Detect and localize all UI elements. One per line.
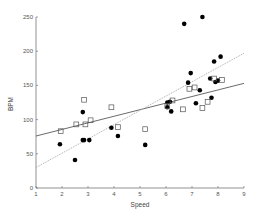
x-tick-label: 2 — [60, 191, 64, 197]
open-square-point — [82, 97, 87, 102]
x-tick-label: 9 — [242, 191, 246, 197]
filled-circle-point — [82, 138, 87, 143]
y-tick-label: 50 — [26, 151, 33, 157]
scatter-chart: 123456789050100150200250 Speed BPM — [0, 0, 259, 217]
open-square-point — [187, 86, 192, 91]
data-points — [58, 15, 225, 163]
filled-circle-point — [165, 105, 170, 110]
x-axis-label: Speed — [131, 201, 150, 209]
x-tick-label: 7 — [190, 191, 194, 197]
filled-circle-point — [194, 101, 199, 106]
filled-circle-point — [182, 22, 187, 27]
dotted-regression-line — [36, 53, 244, 167]
filled-circle-point — [73, 158, 78, 163]
filled-circle-point — [87, 138, 92, 143]
y-tick-label: 150 — [23, 82, 34, 88]
filled-circle-point — [188, 71, 193, 76]
x-tick-label: 3 — [86, 191, 90, 197]
y-tick-label: 250 — [23, 14, 34, 20]
x-tick-label: 5 — [138, 191, 142, 197]
open-square-point — [116, 125, 121, 130]
y-tick-label: 100 — [23, 117, 34, 123]
open-square-point — [192, 85, 197, 90]
filled-circle-point — [116, 134, 121, 139]
open-square-point — [181, 107, 186, 112]
y-tick-label: 0 — [30, 185, 34, 191]
open-square-point — [220, 78, 225, 83]
filled-circle-point — [81, 110, 86, 115]
y-axis-label: BPM — [7, 97, 14, 111]
filled-circle-point — [212, 59, 217, 64]
filled-circle-point — [186, 80, 191, 85]
open-square-point — [205, 99, 210, 104]
y-tick-label: 200 — [23, 48, 34, 54]
filled-circle-point — [169, 109, 174, 114]
x-tick-label: 1 — [34, 191, 38, 197]
filled-circle-point — [143, 143, 148, 148]
filled-circle-point — [58, 142, 63, 147]
filled-circle-point — [200, 15, 205, 20]
filled-circle-point — [218, 54, 223, 59]
x-tick-label: 8 — [216, 191, 220, 197]
axes: 123456789050100150200250 — [23, 14, 246, 197]
x-tick-label: 6 — [164, 191, 168, 197]
solid-regression-line — [36, 83, 244, 136]
filled-circle-point — [109, 126, 114, 131]
open-square-point — [200, 106, 205, 111]
filled-circle-point — [198, 88, 203, 93]
x-tick-label: 4 — [112, 191, 116, 197]
open-square-point — [143, 127, 148, 132]
regression-lines — [36, 53, 244, 167]
open-square-point — [109, 105, 114, 110]
